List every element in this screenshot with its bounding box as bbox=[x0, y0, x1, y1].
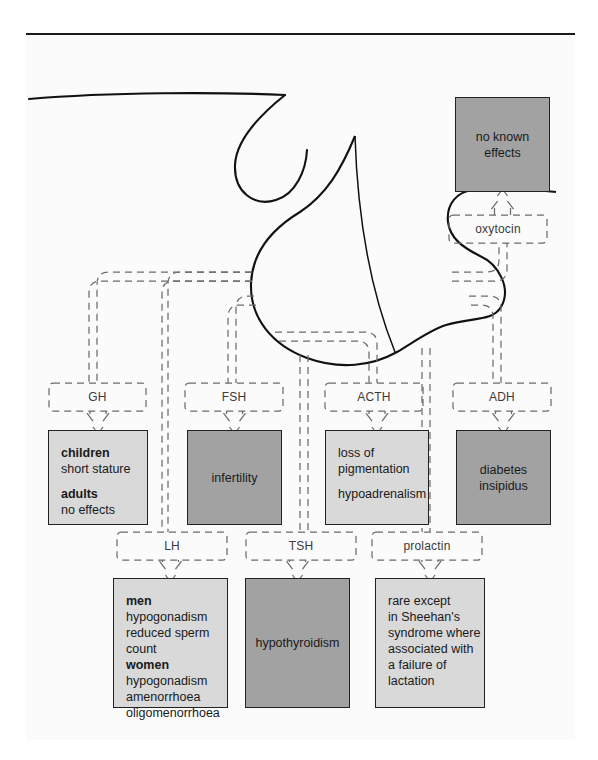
effect-box-content: menhypogonadismreduced spermcountwomenhy… bbox=[126, 593, 217, 721]
hormone-label-text: FSH bbox=[219, 390, 250, 404]
effect-box-fsh: infertility bbox=[187, 430, 282, 525]
effect-text-line: reduced sperm bbox=[126, 625, 217, 641]
effect-box-content: hypothyroidism bbox=[255, 635, 339, 651]
effect-text-line: count bbox=[126, 641, 217, 657]
effect-text-line: lactation bbox=[388, 673, 474, 689]
effect-text-line: hypogonadism bbox=[126, 609, 217, 625]
hormone-label-text: ACTH bbox=[354, 390, 393, 404]
effect-text-line: pigmentation bbox=[338, 461, 418, 477]
effect-text-line: no known bbox=[476, 129, 530, 145]
hormone-label-adh: ADH bbox=[453, 383, 551, 411]
effect-text-line: infertility bbox=[212, 470, 258, 486]
effect-text-line: oligomenorrhoea bbox=[126, 705, 217, 721]
effect-box-lh: menhypogonadismreduced spermcountwomenhy… bbox=[113, 578, 228, 708]
effect-group-heading: adults bbox=[61, 486, 137, 502]
effect-text-line: hypogonadism bbox=[126, 673, 217, 689]
effect-text-line: hypothyroidism bbox=[255, 635, 339, 651]
hormone-label-text: ADH bbox=[486, 390, 518, 404]
hormone-label-gh: GH bbox=[49, 383, 146, 411]
hormone-label-lh: LH bbox=[117, 532, 227, 560]
effect-text-line: a failure of bbox=[388, 657, 474, 673]
hormone-label-tsh: TSH bbox=[246, 532, 356, 560]
effect-text-line: associated with bbox=[388, 641, 474, 657]
hormone-label-oxytocin: oxytocin bbox=[449, 215, 547, 243]
effect-box-gh: childrenshort statureadultsno effects bbox=[48, 430, 148, 525]
effect-text-line: in Sheehan's bbox=[388, 609, 474, 625]
effect-box-prolactin: rare exceptin Sheehan'ssyndrome whereass… bbox=[375, 578, 485, 708]
effect-text-line: hypoadrenalism bbox=[338, 486, 418, 502]
effect-box-oxytocin: no knowneffects bbox=[455, 97, 550, 192]
hormone-label-text: prolactin bbox=[400, 539, 453, 553]
effect-box-content: no knowneffects bbox=[476, 129, 530, 161]
effect-box-content: infertility bbox=[212, 470, 258, 486]
effect-box-adh: diabetesinsipidus bbox=[456, 430, 551, 525]
effect-text-line: short stature bbox=[61, 461, 137, 477]
effect-text-line: diabetes bbox=[479, 462, 528, 478]
effect-text-line: insipidus bbox=[479, 478, 528, 494]
effect-text-line: amenorrhoea bbox=[126, 689, 217, 705]
effect-text-line: syndrome where bbox=[388, 625, 474, 641]
effect-group-heading: women bbox=[126, 657, 217, 673]
hormone-label-text: GH bbox=[85, 390, 109, 404]
hormone-label-text: TSH bbox=[286, 539, 317, 553]
text-spacer bbox=[338, 477, 418, 486]
effect-box-tsh: hypothyroidism bbox=[245, 578, 350, 708]
hormone-label-acth: ACTH bbox=[325, 383, 423, 411]
text-spacer bbox=[61, 477, 137, 486]
effect-text-line: no effects bbox=[61, 502, 137, 518]
effect-box-content: loss ofpigmentationhypoadrenalism bbox=[338, 445, 418, 502]
effect-box-acth: loss ofpigmentationhypoadrenalism bbox=[325, 430, 429, 525]
effect-group-heading: men bbox=[126, 593, 217, 609]
effect-box-content: rare exceptin Sheehan'ssyndrome whereass… bbox=[388, 593, 474, 689]
effect-box-content: childrenshort statureadultsno effects bbox=[61, 445, 137, 518]
hormone-label-text: LH bbox=[161, 539, 183, 553]
effect-box-content: diabetesinsipidus bbox=[479, 462, 528, 494]
effect-text-line: rare except bbox=[388, 593, 474, 609]
effect-text-line: effects bbox=[476, 145, 530, 161]
hormone-label-text: oxytocin bbox=[472, 222, 524, 236]
effect-group-heading: children bbox=[61, 445, 137, 461]
hormone-label-fsh: FSH bbox=[185, 383, 283, 411]
effect-text-line: loss of bbox=[338, 445, 418, 461]
hormone-label-prolactin: prolactin bbox=[372, 532, 482, 560]
